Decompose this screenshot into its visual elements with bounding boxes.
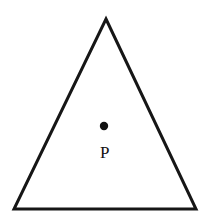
figure-canvas: P — [0, 0, 208, 224]
point-p-label: P — [100, 144, 109, 161]
interior-point-dot — [100, 122, 108, 130]
triangle-outline — [14, 19, 196, 209]
geometry-figure — [0, 0, 208, 224]
